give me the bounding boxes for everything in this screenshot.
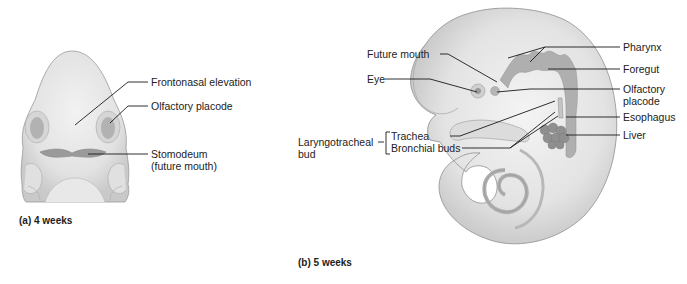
label-laryngotracheal: Laryngotracheal <box>298 136 373 148</box>
label-frontonasal-elevation: Frontonasal elevation <box>151 76 251 88</box>
label-placode-b: placode <box>623 95 660 107</box>
label-bud: bud <box>298 148 316 160</box>
label-olfactory-placode-a: Olfactory placode <box>151 100 233 112</box>
label-liver: Liver <box>623 129 646 141</box>
label-eye: Eye <box>367 73 385 85</box>
embryo-5-weeks <box>411 8 617 244</box>
label-stomodeum: Stomodeum <box>151 148 208 160</box>
label-bronchial-buds: Bronchial buds <box>391 142 460 154</box>
embryo-4-weeks <box>21 51 129 202</box>
caption-b: (b) 5 weeks <box>298 257 352 268</box>
label-trachea: Trachea <box>391 130 429 142</box>
label-olfactory-placode-b: Olfactory <box>623 83 665 95</box>
caption-a: (a) 4 weeks <box>19 215 72 226</box>
label-future-mouth-b: Future mouth <box>367 48 429 60</box>
label-foregut: Foregut <box>623 63 659 75</box>
label-pharynx: Pharynx <box>623 41 662 53</box>
label-future-mouth-a: (future mouth) <box>151 160 217 172</box>
embryo-figure: Frontonasal elevation Olfactory placode … <box>0 0 687 284</box>
label-esophagus: Esophagus <box>623 111 676 123</box>
